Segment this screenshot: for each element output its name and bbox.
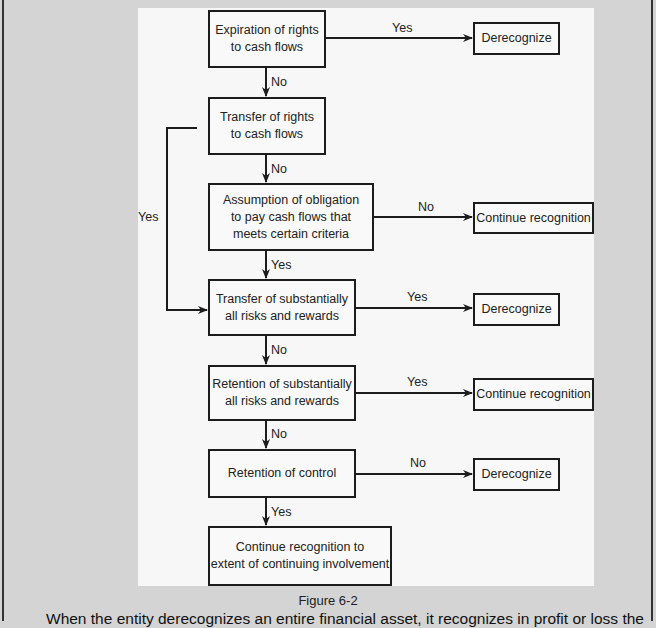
edge-label-expiration-no: No bbox=[271, 75, 287, 89]
edge-label-transfer-risks-yes: Yes bbox=[407, 290, 427, 304]
outcome-derecognize-1: Derecognize bbox=[473, 22, 560, 55]
edge-label-retention-risks-yes: Yes bbox=[407, 375, 427, 389]
edge-label-retention-control-yes: Yes bbox=[271, 505, 291, 519]
outcome-derecognize-3: Derecognize bbox=[473, 458, 560, 491]
edge-label-transfer-rights-yes: Yes bbox=[138, 210, 158, 224]
body-paragraph-text: When the entity derecognizes an entire f… bbox=[46, 610, 644, 628]
edge-label-retention-control-no: No bbox=[410, 456, 426, 470]
edge-label-transfer-rights-no: No bbox=[271, 162, 287, 176]
node-continue-recognition-extent: Continue recognition to extent of contin… bbox=[208, 526, 392, 586]
edge-label-retention-risks-no: No bbox=[271, 427, 287, 441]
node-transfer-of-risks-rewards: Transfer of substantially all risks and … bbox=[208, 279, 356, 336]
node-expiration-of-rights: Expiration of rights to cash flows bbox=[208, 10, 326, 68]
outcome-derecognize-2: Derecognize bbox=[473, 293, 560, 326]
outcome-continue-recognition-2: Continue recognition bbox=[473, 378, 594, 411]
outcome-continue-recognition-1: Continue recognition bbox=[473, 202, 594, 234]
edge-label-expiration-yes: Yes bbox=[392, 21, 412, 35]
figure-caption: Figure 6-2 bbox=[0, 593, 656, 608]
node-retention-of-risks-rewards: Retention of substantially all risks and… bbox=[208, 365, 356, 421]
node-transfer-of-rights: Transfer of rights to cash flows bbox=[208, 97, 326, 155]
edge-label-transfer-risks-no: No bbox=[271, 343, 287, 357]
node-assumption-of-obligation: Assumption of obligation to pay cash flo… bbox=[208, 183, 374, 251]
edge-label-assumption-yes: Yes bbox=[271, 258, 291, 272]
node-retention-of-control: Retention of control bbox=[208, 449, 356, 498]
edge-label-assumption-no: No bbox=[418, 200, 434, 214]
